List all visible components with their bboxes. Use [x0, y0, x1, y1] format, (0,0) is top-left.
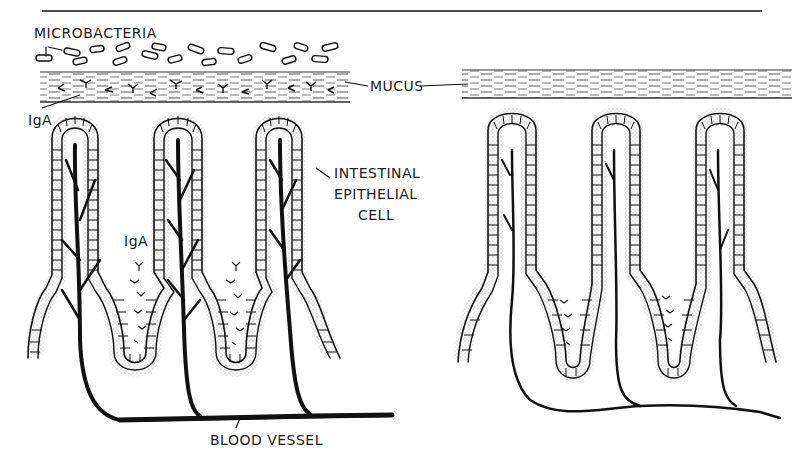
label-microbacteria: MICROBACTERIA [34, 25, 157, 41]
microbacteria-group [36, 42, 338, 66]
label-epithelial-line2: EPITHELIAL [334, 186, 418, 202]
right-panel [458, 70, 792, 418]
label-blood-vessel: BLOOD VESSEL [210, 432, 323, 448]
left-panel: MICROBACTERIA [28, 25, 468, 448]
intestinal-villi-diagram: MICROBACTERIA [0, 0, 806, 468]
label-iga-top: IgA [28, 112, 52, 128]
mucus-layer-right [462, 70, 792, 98]
label-epithelial-line3: CELL [358, 207, 394, 223]
label-iga-crypt: IgA [124, 233, 148, 249]
label-mucus: MUCUS [370, 78, 424, 94]
label-epithelial-line1: INTESTINAL [334, 165, 420, 181]
